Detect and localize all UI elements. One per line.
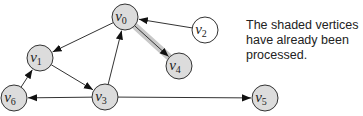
vertex-v3: v3 bbox=[92, 84, 118, 110]
edge-v6-v1 bbox=[21, 70, 32, 87]
edge-v0-v1 bbox=[53, 23, 114, 52]
vertex-v0: v0 bbox=[112, 4, 138, 30]
edge-v2-v0 bbox=[139, 19, 192, 28]
edge-v3-v0 bbox=[108, 31, 121, 85]
edge-v3-v5 bbox=[118, 97, 251, 98]
caption-line-3: processed. bbox=[246, 48, 363, 63]
vertex-v5: v5 bbox=[252, 85, 278, 111]
vertex-v1: v1 bbox=[27, 45, 53, 71]
vertex-v2: v2 bbox=[192, 17, 218, 43]
edge-v3-v6 bbox=[28, 97, 92, 98]
vertex-v4: v4 bbox=[166, 53, 192, 79]
nodes-layer: v0v1v2v3v4v5v6 bbox=[1, 4, 278, 111]
edge-v1-v3 bbox=[51, 65, 93, 90]
caption-line-2: have already been bbox=[246, 33, 363, 48]
caption-text: The shaded vertices have already been pr… bbox=[246, 18, 363, 63]
caption-line-1: The shaded vertices bbox=[246, 18, 363, 33]
edge-v0-v4 bbox=[135, 26, 169, 57]
vertex-v6: v6 bbox=[1, 85, 27, 111]
